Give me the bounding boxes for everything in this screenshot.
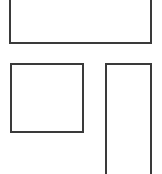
tall-rectangle bbox=[105, 63, 152, 174]
wide-rectangle bbox=[9, 0, 152, 44]
square-rectangle bbox=[10, 63, 84, 133]
